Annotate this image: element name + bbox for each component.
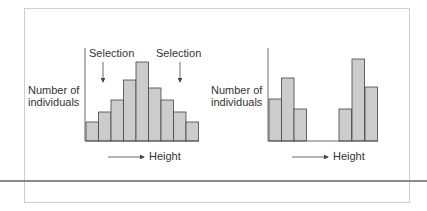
histogram-bar bbox=[124, 80, 137, 141]
left-ylabel-line2: individuals bbox=[28, 96, 79, 109]
histogram-bar bbox=[365, 87, 378, 141]
selection-label-right: Selection bbox=[156, 47, 201, 60]
histogram-bar bbox=[339, 109, 352, 141]
histogram-bar bbox=[99, 112, 112, 141]
histogram-bar bbox=[86, 122, 99, 141]
histogram-bar bbox=[136, 62, 149, 141]
histogram-bar bbox=[269, 99, 282, 141]
right-ylabel-line2: individuals bbox=[211, 96, 262, 109]
selection-label-left: Selection bbox=[89, 47, 134, 60]
histogram-bar bbox=[186, 122, 199, 141]
histogram-bar bbox=[174, 112, 187, 141]
histogram-bar bbox=[294, 109, 307, 141]
histogram-bar bbox=[282, 78, 295, 141]
histogram-bar bbox=[149, 88, 162, 141]
histogram-bar bbox=[111, 100, 124, 141]
left-xlabel: Height bbox=[149, 150, 181, 163]
histogram-bar bbox=[352, 59, 365, 141]
right-xlabel: Height bbox=[333, 150, 365, 163]
histogram-bar bbox=[161, 100, 174, 141]
